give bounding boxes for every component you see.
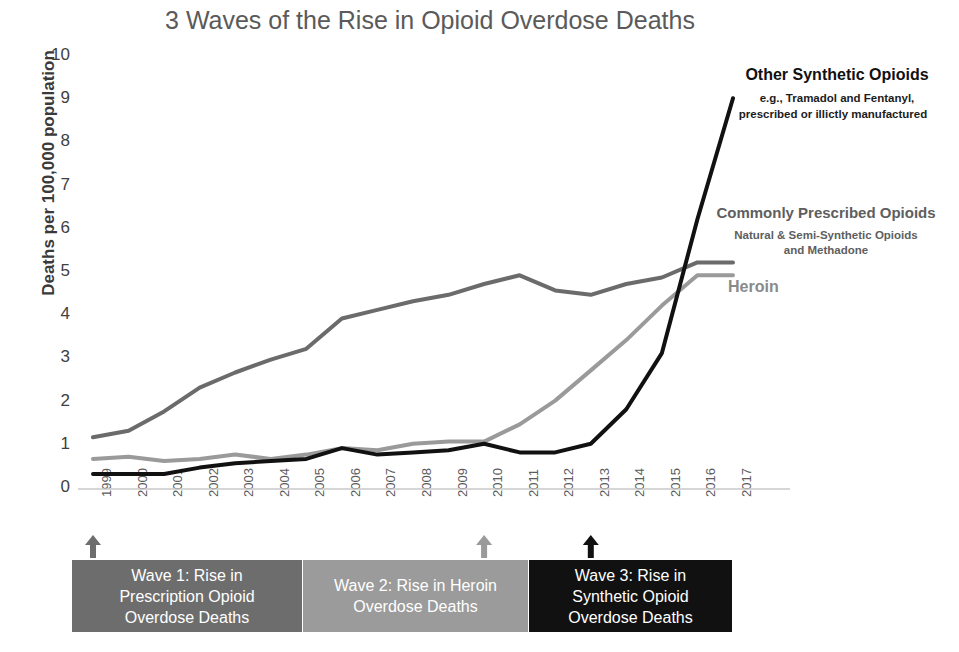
wave-2-band: Wave 2: Rise in Heroin Overdose Deaths bbox=[303, 560, 528, 632]
arrow-icon-wave3 bbox=[583, 535, 599, 558]
wave-marker-arrows bbox=[85, 535, 599, 558]
wave-3-line2: Synthetic Opioid bbox=[568, 586, 693, 607]
annotation-synthetic-line1: e.g., Tramadol and Fentanyl, bbox=[718, 91, 956, 105]
wave-1-line3: Overdose Deaths bbox=[119, 607, 254, 628]
series-line-other-synthetic-opioids bbox=[93, 98, 733, 474]
series-line-commonly-prescribed-opioids bbox=[93, 262, 733, 437]
annotation-prescribed-title: Commonly Prescribed Opioids bbox=[698, 204, 954, 221]
annotation-synthetic-line2: prescribed or illictly manufactured bbox=[708, 107, 958, 121]
arrow-icon-wave1 bbox=[85, 535, 101, 558]
wave-3-line1: Wave 3: Rise in bbox=[568, 565, 693, 586]
wave-1-line1: Wave 1: Rise in bbox=[119, 565, 254, 586]
annotation-heroin-title: Heroin bbox=[728, 278, 848, 296]
wave-3-line3: Overdose Deaths bbox=[568, 607, 693, 628]
series-layer bbox=[93, 98, 733, 474]
wave-1-line2: Prescription Opioid bbox=[119, 586, 254, 607]
arrow-icon-wave2 bbox=[476, 535, 492, 558]
annotation-prescribed-line2: and Methadone bbox=[698, 243, 954, 257]
wave-1-band: Wave 1: Rise in Prescription Opioid Over… bbox=[72, 560, 302, 632]
annotation-synthetic-title: Other Synthetic Opioids bbox=[718, 66, 956, 84]
annotation-prescribed-line1: Natural & Semi-Synthetic Opioids bbox=[698, 228, 954, 242]
wave-2-line1: Wave 2: Rise in Heroin bbox=[334, 575, 497, 596]
wave-2-line2: Overdose Deaths bbox=[334, 596, 497, 617]
wave-3-band: Wave 3: Rise in Synthetic Opioid Overdos… bbox=[529, 560, 732, 632]
